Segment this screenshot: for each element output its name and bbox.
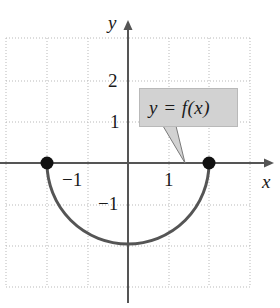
right-endpoint-dot — [203, 157, 216, 170]
x-tick-label-negative-1: −1 — [62, 170, 82, 189]
y-tick-label-negative-1: −1 — [98, 194, 118, 213]
y-axis — [124, 20, 133, 303]
y-axis-arrowhead — [124, 20, 133, 30]
y-tick-label-2: 2 — [108, 71, 118, 90]
y-axis-label: y — [108, 13, 116, 32]
x-tick-label-1: 1 — [164, 170, 174, 189]
x-axis-label: x — [262, 172, 270, 191]
function-callout-label: y = f(x) — [149, 98, 210, 118]
function-graph-figure: y = f(x) y x 2 1 −1 −1 1 — [0, 0, 280, 308]
plot-canvas — [0, 0, 280, 308]
y-tick-label-1: 1 — [110, 112, 120, 131]
x-axis-arrowhead — [264, 159, 274, 168]
callout-pointer — [163, 126, 185, 163]
left-endpoint-dot — [41, 157, 54, 170]
